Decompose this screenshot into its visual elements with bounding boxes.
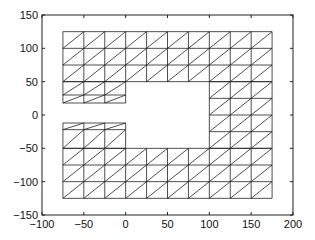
y-tick-label: 50 (26, 76, 38, 88)
y-tick-label: −150 (13, 209, 38, 221)
x-tick-label: 0 (123, 218, 129, 230)
x-tick-label: 200 (284, 218, 302, 230)
x-tick-label: −50 (74, 218, 93, 230)
y-tick-label: 100 (20, 42, 38, 54)
y-tick-label: 0 (32, 109, 38, 121)
x-tick-label: 100 (200, 218, 218, 230)
triangle-mesh (63, 32, 272, 199)
x-tick-label: 150 (242, 218, 260, 230)
y-tick-label: −100 (13, 176, 38, 188)
y-tick-label: 150 (20, 9, 38, 21)
y-tick-label: −50 (19, 142, 38, 154)
x-tick-label: 50 (161, 218, 173, 230)
mesh-plot: −100−50050100150200−150−100−50050100150 (0, 0, 315, 240)
